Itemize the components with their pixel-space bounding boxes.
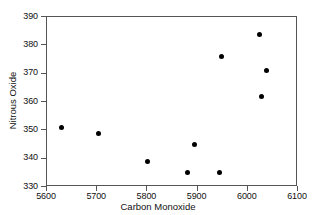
- y-axis-tick-label: 340: [4, 153, 38, 162]
- data-point: [259, 94, 264, 99]
- y-axis-title: Nitrous Oxide: [7, 51, 18, 151]
- y-axis-tick-label: 380: [4, 40, 38, 49]
- data-point: [257, 32, 262, 37]
- x-axis-tick-label: 6000: [227, 192, 267, 201]
- data-point: [192, 142, 197, 147]
- x-axis-tick-label: 5900: [177, 192, 217, 201]
- x-axis-tick-label: 5700: [76, 192, 116, 201]
- data-point: [219, 54, 224, 59]
- scatter-plot-figure: 330340350360370380390 560057005800590060…: [0, 0, 316, 215]
- plot-area: [46, 16, 297, 186]
- y-axis-tick-label: 390: [4, 12, 38, 21]
- data-point: [96, 131, 101, 136]
- x-axis-tick-label: 5600: [26, 192, 66, 201]
- data-point: [264, 68, 269, 73]
- y-axis-tick-label: 330: [4, 182, 38, 191]
- data-point: [217, 170, 222, 175]
- data-point: [59, 125, 64, 130]
- x-axis-tick-label: 6100: [277, 192, 316, 201]
- data-point: [185, 170, 190, 175]
- x-axis-tick-label: 5800: [126, 192, 166, 201]
- x-axis-title: Carbon Monoxide: [0, 201, 316, 212]
- data-point: [145, 159, 150, 164]
